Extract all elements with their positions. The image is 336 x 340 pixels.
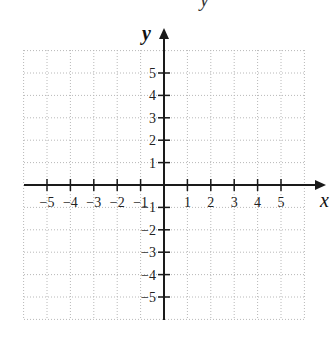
y-axis-label: y <box>140 22 151 45</box>
y-tick-label: 1 <box>149 156 156 171</box>
x-tick-label: −4 <box>63 195 78 210</box>
x-tick-label: −5 <box>40 195 55 210</box>
y-tick-label: −5 <box>141 290 156 305</box>
x-tick-label: 4 <box>254 195 261 210</box>
x-tick-label: −3 <box>86 195 101 210</box>
x-axis-ticks: −5−4−3−2−112345 <box>40 179 285 210</box>
y-tick-label: 4 <box>149 88 156 103</box>
x-tick-label: −2 <box>110 195 125 210</box>
y-tick-label: −2 <box>141 223 156 238</box>
y-tick-label: −1 <box>141 200 156 215</box>
header-fragment: y <box>198 0 209 11</box>
x-tick-label: 1 <box>184 195 191 210</box>
x-tick-label: 5 <box>278 195 285 210</box>
y-axis-arrow-icon <box>159 28 169 39</box>
x-axis-label: x <box>319 189 329 211</box>
y-tick-label: −4 <box>141 268 156 283</box>
y-tick-label: 3 <box>149 111 156 126</box>
y-tick-label: 2 <box>149 133 156 148</box>
y-tick-label: −3 <box>141 245 156 260</box>
y-tick-label: 5 <box>149 66 156 81</box>
x-tick-label: 3 <box>231 195 238 210</box>
x-tick-label: 2 <box>207 195 214 210</box>
coordinate-plane: y −5−4−3−2−112345 54321−1−2−3−4−5 x y <box>0 0 336 340</box>
